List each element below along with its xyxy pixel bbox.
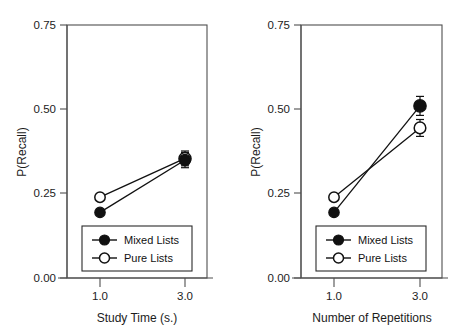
chart-panel-study-time: 0.75 0.50 0.25 0.00 1.0 3.0 Study Time (… <box>0 0 231 331</box>
y-tick-label-025: 0.25 <box>268 187 290 199</box>
y-tick-label-050: 0.50 <box>34 103 56 115</box>
datapoint-pure-lists-3 <box>414 122 426 134</box>
x-tick-label-1: 1.0 <box>92 290 108 302</box>
legend-marker-pure-lists <box>100 253 110 263</box>
legend: Mixed Lists Pure Lists <box>82 226 192 271</box>
series-line-pure-lists <box>100 158 185 197</box>
x-tick-label-2: 3.0 <box>412 290 428 302</box>
legend: Mixed Lists Pure Lists <box>316 226 426 271</box>
datapoint-pure-lists-1 <box>329 192 339 202</box>
legend-label-mixed-lists: Mixed Lists <box>124 234 180 246</box>
legend-label-pure-lists: Pure Lists <box>124 252 173 264</box>
figure-container: 0.75 0.50 0.25 0.00 1.0 3.0 Study Time (… <box>0 0 463 331</box>
study-time-plot: 0.75 0.50 0.25 0.00 1.0 3.0 Study Time (… <box>0 0 231 331</box>
datapoint-mixed-lists-3 <box>414 100 426 112</box>
chart-panel-repetitions: 0.75 0.50 0.25 0.00 1.0 3.0 Number of Re… <box>232 0 463 331</box>
legend-label-mixed-lists: Mixed Lists <box>358 234 414 246</box>
y-axis-title: P(Recall) <box>249 127 263 176</box>
legend-marker-mixed-lists <box>334 235 344 245</box>
repetitions-plot: 0.75 0.50 0.25 0.00 1.0 3.0 Number of Re… <box>232 0 463 331</box>
series-line-mixed-lists <box>334 106 420 212</box>
series-line-mixed-lists <box>100 160 185 212</box>
x-axis-title: Study Time (s.) <box>97 311 178 325</box>
x-tick-label-1: 1.0 <box>326 290 342 302</box>
datapoint-mixed-lists-3 <box>179 154 190 165</box>
x-tick-label-2: 3.0 <box>177 290 193 302</box>
y-tick-label-075: 0.75 <box>268 19 290 31</box>
legend-marker-mixed-lists <box>100 235 110 245</box>
y-tick-label-075: 0.75 <box>34 19 56 31</box>
legend-frame <box>82 226 192 271</box>
datapoint-mixed-lists-1 <box>95 207 105 217</box>
legend-label-pure-lists: Pure Lists <box>358 252 407 264</box>
y-tick-label-000: 0.00 <box>34 272 56 284</box>
y-axis-title: P(Recall) <box>15 127 29 176</box>
x-axis-title: Number of Repetitions <box>312 311 431 325</box>
series-line-pure-lists <box>334 128 420 197</box>
legend-marker-pure-lists <box>334 253 344 263</box>
datapoint-pure-lists-1 <box>95 192 105 202</box>
datapoint-mixed-lists-1 <box>329 207 339 217</box>
y-tick-label-000: 0.00 <box>268 272 290 284</box>
legend-frame <box>316 226 426 271</box>
y-tick-label-025: 0.25 <box>34 187 56 199</box>
y-tick-label-050: 0.50 <box>268 103 290 115</box>
